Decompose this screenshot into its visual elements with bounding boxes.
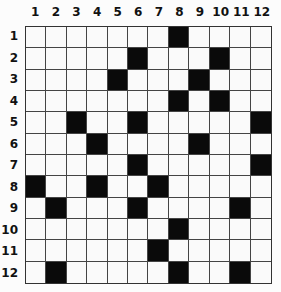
white-cell[interactable] (46, 27, 66, 48)
white-cell[interactable] (46, 219, 66, 240)
white-cell[interactable] (148, 155, 168, 176)
white-cell[interactable] (230, 48, 250, 69)
white-cell[interactable] (46, 48, 66, 69)
white-cell[interactable] (46, 134, 66, 155)
white-cell[interactable] (46, 112, 66, 133)
white-cell[interactable] (148, 219, 168, 240)
white-cell[interactable] (189, 198, 209, 219)
white-cell[interactable] (67, 262, 87, 283)
white-cell[interactable] (189, 27, 209, 48)
white-cell[interactable] (87, 262, 107, 283)
white-cell[interactable] (67, 134, 87, 155)
white-cell[interactable] (230, 112, 250, 133)
white-cell[interactable] (251, 219, 271, 240)
white-cell[interactable] (26, 112, 46, 133)
white-cell[interactable] (210, 262, 230, 283)
white-cell[interactable] (26, 198, 46, 219)
white-cell[interactable] (87, 155, 107, 176)
white-cell[interactable] (210, 176, 230, 197)
white-cell[interactable] (128, 27, 148, 48)
white-cell[interactable] (169, 70, 189, 91)
white-cell[interactable] (169, 134, 189, 155)
white-cell[interactable] (251, 48, 271, 69)
white-cell[interactable] (128, 240, 148, 261)
white-cell[interactable] (128, 219, 148, 240)
white-cell[interactable] (251, 198, 271, 219)
white-cell[interactable] (87, 219, 107, 240)
white-cell[interactable] (26, 91, 46, 112)
white-cell[interactable] (148, 112, 168, 133)
white-cell[interactable] (67, 70, 87, 91)
white-cell[interactable] (108, 134, 128, 155)
white-cell[interactable] (87, 27, 107, 48)
white-cell[interactable] (26, 240, 46, 261)
white-cell[interactable] (148, 134, 168, 155)
white-cell[interactable] (148, 27, 168, 48)
white-cell[interactable] (230, 240, 250, 261)
white-cell[interactable] (189, 176, 209, 197)
white-cell[interactable] (230, 134, 250, 155)
white-cell[interactable] (189, 91, 209, 112)
white-cell[interactable] (67, 240, 87, 261)
white-cell[interactable] (108, 112, 128, 133)
white-cell[interactable] (230, 70, 250, 91)
white-cell[interactable] (230, 91, 250, 112)
white-cell[interactable] (251, 70, 271, 91)
white-cell[interactable] (169, 155, 189, 176)
white-cell[interactable] (46, 155, 66, 176)
white-cell[interactable] (87, 48, 107, 69)
white-cell[interactable] (46, 91, 66, 112)
white-cell[interactable] (251, 176, 271, 197)
white-cell[interactable] (210, 134, 230, 155)
white-cell[interactable] (67, 27, 87, 48)
white-cell[interactable] (46, 176, 66, 197)
white-cell[interactable] (128, 91, 148, 112)
white-cell[interactable] (148, 262, 168, 283)
white-cell[interactable] (230, 219, 250, 240)
white-cell[interactable] (108, 219, 128, 240)
white-cell[interactable] (230, 155, 250, 176)
white-cell[interactable] (26, 134, 46, 155)
white-cell[interactable] (87, 70, 107, 91)
white-cell[interactable] (108, 176, 128, 197)
white-cell[interactable] (189, 155, 209, 176)
white-cell[interactable] (210, 219, 230, 240)
white-cell[interactable] (169, 48, 189, 69)
white-cell[interactable] (169, 240, 189, 261)
white-cell[interactable] (148, 91, 168, 112)
white-cell[interactable] (87, 240, 107, 261)
white-cell[interactable] (210, 155, 230, 176)
white-cell[interactable] (26, 70, 46, 91)
white-cell[interactable] (251, 134, 271, 155)
white-cell[interactable] (108, 48, 128, 69)
white-cell[interactable] (251, 27, 271, 48)
white-cell[interactable] (251, 91, 271, 112)
white-cell[interactable] (67, 48, 87, 69)
white-cell[interactable] (108, 155, 128, 176)
white-cell[interactable] (108, 198, 128, 219)
white-cell[interactable] (148, 70, 168, 91)
white-cell[interactable] (67, 155, 87, 176)
white-cell[interactable] (189, 48, 209, 69)
white-cell[interactable] (210, 112, 230, 133)
white-cell[interactable] (189, 262, 209, 283)
white-cell[interactable] (26, 48, 46, 69)
white-cell[interactable] (108, 262, 128, 283)
white-cell[interactable] (87, 112, 107, 133)
white-cell[interactable] (87, 198, 107, 219)
white-cell[interactable] (67, 91, 87, 112)
white-cell[interactable] (108, 27, 128, 48)
white-cell[interactable] (67, 219, 87, 240)
white-cell[interactable] (148, 48, 168, 69)
white-cell[interactable] (128, 134, 148, 155)
white-cell[interactable] (87, 91, 107, 112)
white-cell[interactable] (210, 70, 230, 91)
white-cell[interactable] (128, 70, 148, 91)
white-cell[interactable] (128, 176, 148, 197)
white-cell[interactable] (128, 262, 148, 283)
white-cell[interactable] (189, 240, 209, 261)
white-cell[interactable] (210, 198, 230, 219)
white-cell[interactable] (189, 219, 209, 240)
white-cell[interactable] (26, 27, 46, 48)
white-cell[interactable] (169, 198, 189, 219)
